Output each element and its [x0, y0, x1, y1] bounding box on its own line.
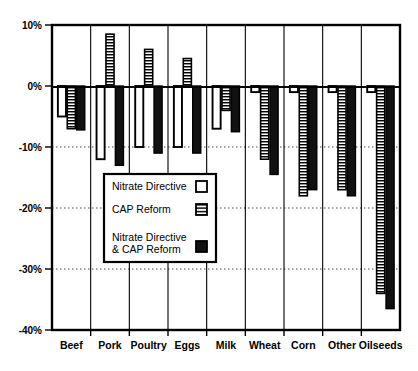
x-tick-label: Pork: [98, 339, 122, 351]
bar: [115, 86, 123, 165]
bar: [97, 86, 105, 159]
y-tick-label: 0%: [28, 81, 43, 92]
y-tick-label: -30%: [19, 264, 42, 275]
x-tick-label: Other: [328, 339, 356, 351]
legend-label: Nitrate Directive: [112, 231, 187, 243]
chart-legend: Nitrate DirectiveCAP ReformNitrate Direc…: [104, 174, 216, 262]
y-tick-label: -20%: [19, 203, 42, 214]
bar: [261, 86, 269, 159]
bar: [338, 86, 346, 190]
bar-chart: 10%0%-10%-20%-30%-40% BeefPorkPoultryEgg…: [0, 0, 418, 371]
x-axis: BeefPorkPoultryEggsMilkWheatCornOtherOil…: [60, 330, 403, 351]
bar: [154, 86, 162, 153]
open-square-icon: [196, 181, 207, 192]
bar: [377, 86, 385, 293]
solid-square-icon: [196, 241, 207, 252]
y-tick-label: -40%: [19, 325, 42, 336]
bar: [58, 86, 66, 117]
chart-container: 10%0%-10%-20%-30%-40% BeefPorkPoultryEgg…: [0, 0, 418, 371]
bar: [193, 86, 201, 153]
x-tick-label: Oilseeds: [359, 339, 403, 351]
bar: [309, 86, 317, 190]
x-tick-label: Eggs: [174, 339, 200, 351]
hatched-square-icon: [196, 204, 207, 215]
bar: [174, 86, 182, 147]
bar: [222, 86, 230, 110]
x-tick-label: Beef: [60, 339, 83, 351]
legend-label: Nitrate Directive: [112, 180, 187, 192]
x-tick-label: Corn: [291, 339, 316, 351]
y-axis: 10%0%-10%-20%-30%-40%: [19, 20, 52, 336]
x-tick-label: Poultry: [131, 339, 167, 351]
bar: [299, 86, 307, 196]
x-tick-label: Milk: [216, 339, 237, 351]
bar: [145, 49, 153, 86]
bar: [386, 86, 394, 309]
y-tick-label: -10%: [19, 142, 42, 153]
y-tick-label: 10%: [22, 20, 42, 31]
bar: [67, 86, 75, 129]
bar: [106, 34, 114, 86]
bar: [77, 86, 85, 130]
bar: [183, 59, 191, 86]
bar: [213, 86, 221, 129]
bar: [135, 86, 143, 147]
bar: [231, 86, 239, 132]
x-tick-label: Wheat: [249, 339, 281, 351]
legend-label: CAP Reform: [112, 203, 171, 215]
bar: [270, 86, 278, 174]
bar: [347, 86, 355, 196]
legend-label-line2: & CAP Reform: [112, 243, 181, 255]
